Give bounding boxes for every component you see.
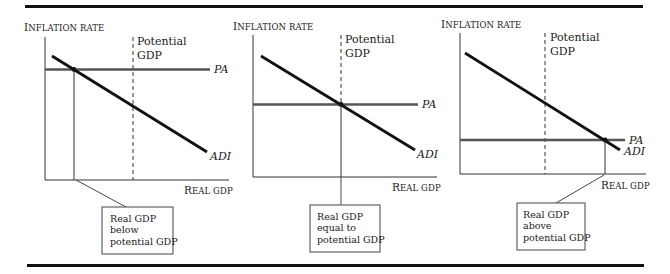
y-axis-title: INFLATION RATE [441, 18, 521, 30]
potential-gdp-label: Potential [550, 31, 600, 44]
panel-equal-potential: INFLATION RATE REAL GDP Potential GDP PA… [233, 20, 441, 252]
potential-gdp-label: Potential [345, 33, 395, 46]
y-axis-title: INFLATION RATE [233, 20, 313, 32]
callout-text: Real GDP [110, 213, 157, 224]
bottom-rule [27, 264, 644, 267]
potential-gdp-label-2: GDP [345, 47, 371, 60]
x-axis-title: REAL GDP [184, 184, 233, 196]
adi-label: ADI [416, 148, 439, 161]
callout-text: Real GDP [523, 209, 570, 220]
potential-gdp-label-2: GDP [137, 49, 163, 62]
x-axis-title: REAL GDP [601, 179, 650, 191]
callout-connector [556, 175, 604, 203]
callout-text: Real GDP [317, 211, 364, 222]
adi-label: ADI [209, 150, 232, 163]
callout-text-3: potential GDP [317, 234, 385, 245]
adi-line [465, 53, 620, 150]
panel-above-potential: INFLATION RATE REAL GDP Potential GDP PA… [441, 18, 650, 250]
callout-text-2: below [110, 224, 139, 235]
panel-below-potential: INFLATION RATE REAL GDP Potential GDP PA… [24, 21, 233, 254]
top-rule [25, 5, 643, 8]
three-panel-adi-pa-diagram: INFLATION RATE REAL GDP Potential GDP PA… [0, 0, 670, 274]
callout-text-2: equal to [317, 222, 356, 233]
pa-label: PA [421, 98, 436, 111]
callout-connector [76, 180, 126, 207]
callout-text-3: potential GDP [523, 232, 591, 243]
adi-label: ADI [623, 145, 646, 158]
callout-text-2: above [523, 220, 552, 231]
pa-label: PA [213, 63, 228, 76]
potential-gdp-label: Potential [137, 35, 187, 48]
x-axis-title: REAL GDP [392, 181, 441, 193]
potential-gdp-label-2: GDP [550, 45, 576, 58]
callout-text-3: potential GDP [110, 236, 178, 247]
y-axis-title: INFLATION RATE [24, 21, 104, 33]
adi-line [261, 56, 415, 150]
